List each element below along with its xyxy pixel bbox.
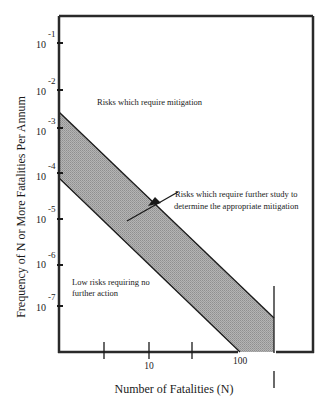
svg-text:10: 10 — [36, 126, 46, 137]
x-tick-label-10: 10 — [144, 361, 154, 371]
y-axis-title: Frequency of N or More Fatalities Per An… — [14, 96, 28, 318]
x-axis-ticks — [104, 342, 192, 359]
svg-text:-2: -2 — [48, 76, 56, 86]
region-label-high: Risks which require mitigation — [97, 97, 203, 107]
region-label-mid-line2: determine the appropriate mitigation — [174, 201, 299, 211]
region-label-low-line2: further action — [72, 288, 119, 298]
svg-text:10: 10 — [36, 86, 46, 97]
svg-text:10: 10 — [36, 302, 46, 313]
svg-text:-4: -4 — [48, 161, 56, 171]
svg-text:-3: -3 — [48, 116, 56, 126]
svg-text:-7: -7 — [48, 292, 56, 302]
svg-text:-6: -6 — [48, 250, 56, 260]
further-study-band — [59, 112, 274, 352]
svg-text:-1: -1 — [48, 29, 56, 39]
svg-text:10: 10 — [36, 214, 46, 225]
y-tick-labels: 10 -1 10 -2 10 -3 10 -4 10 -5 10 -6 10 -… — [36, 29, 56, 313]
x-axis-title: Number of Fatalities (N) — [115, 382, 234, 396]
fn-risk-chart: 10 -1 10 -2 10 -3 10 -4 10 -5 10 -6 10 -… — [0, 0, 325, 406]
svg-text:10: 10 — [36, 171, 46, 182]
svg-text:-5: -5 — [48, 204, 56, 214]
svg-text:10: 10 — [36, 39, 46, 50]
x-tick-label-100: 100 — [233, 356, 248, 366]
region-label-low-line1: Low risks requiring no — [72, 277, 150, 287]
svg-text:10: 10 — [36, 259, 46, 270]
region-label-mid-line1: Risks which require further study to — [175, 189, 298, 199]
